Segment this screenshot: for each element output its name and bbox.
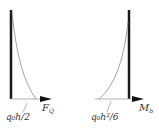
shear-force-diagram: q₀h/2 FQ: [6, 10, 54, 122]
shear-value-label: q₀h/2: [6, 112, 30, 122]
moment-value-label: q₀h²/6: [91, 112, 119, 122]
right-leader-line: [107, 101, 111, 112]
moment-axis-label: Mb: [138, 102, 153, 114]
shear-axis-label: FQ: [41, 102, 54, 114]
right-curve: [99, 22, 128, 99]
diagram-canvas: q₀h/2 FQ q₀h²/6 Mb: [0, 0, 159, 134]
left-leader-line: [23, 103, 27, 112]
bending-moment-diagram: q₀h²/6 Mb: [91, 10, 153, 122]
left-curve: [12, 12, 36, 99]
